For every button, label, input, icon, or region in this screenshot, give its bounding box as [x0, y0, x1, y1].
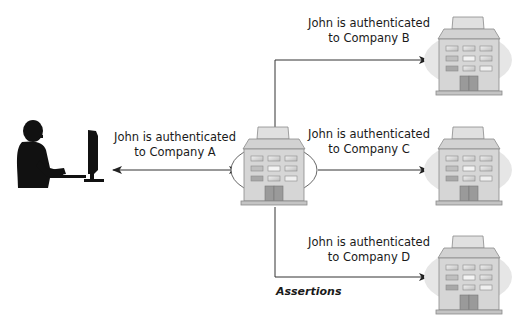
company-c-building-icon — [424, 127, 512, 205]
company-b-building-icon — [424, 17, 512, 95]
label-company-a-line2: to Company A — [113, 145, 237, 160]
label-company-c: John is authenticated to Company C — [307, 127, 431, 157]
label-company-b-line1: John is authenticated — [307, 16, 431, 31]
company-d-building-icon — [424, 236, 512, 314]
label-company-b: John is authenticated to Company B — [307, 16, 431, 46]
label-company-a: John is authenticated to Company A — [113, 130, 237, 160]
label-company-c-line1: John is authenticated — [307, 127, 431, 142]
company-a-building-icon — [231, 127, 317, 205]
label-company-d-line2: to Company D — [307, 250, 431, 265]
label-company-a-line1: John is authenticated — [113, 130, 237, 145]
assertions-label: Assertions — [276, 285, 341, 298]
label-company-b-line2: to Company B — [307, 31, 431, 46]
user-at-computer-icon — [17, 120, 104, 188]
label-company-d: John is authenticated to Company D — [307, 235, 431, 265]
label-company-c-line2: to Company C — [307, 142, 431, 157]
label-company-d-line1: John is authenticated — [307, 235, 431, 250]
